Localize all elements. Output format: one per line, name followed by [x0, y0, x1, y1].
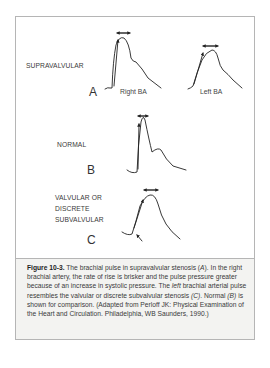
trace-normal	[127, 116, 186, 173]
trace-label-right-ba: Right BA	[120, 88, 147, 95]
panel-a-label: SUPRAVALVULAR	[26, 62, 84, 69]
caption-ref-b: (B)	[227, 292, 236, 299]
panel-c-label-line-3: SUBVALVULAR	[55, 216, 104, 223]
panel-b-label: NORMAL	[57, 141, 86, 148]
panel-c-letter: C	[87, 233, 96, 247]
trace-right-ba	[105, 33, 161, 89]
caption-ref-c: (C)	[191, 292, 200, 299]
trace-left-ba	[188, 46, 242, 89]
caption-text-1: The brachial pulse in supravalvular sten…	[65, 264, 201, 271]
trace-valvular	[122, 190, 180, 241]
pulse-waveforms	[0, 0, 270, 260]
panel-c-label-line-1: VALVULAR OR	[55, 194, 102, 201]
panel-c-label-line-2: DISCRETE	[55, 205, 90, 212]
caption-text-4: . Normal	[200, 292, 227, 299]
figure-number: Figure 10-3.	[27, 264, 65, 271]
caption-left-word: left	[172, 282, 181, 289]
trace-label-left-ba: Left BA	[200, 88, 222, 95]
panel-b-letter: B	[87, 163, 95, 177]
panel-a-letter: A	[89, 85, 97, 99]
figure-caption: Figure 10-3. The brachial pulse in supra…	[16, 259, 254, 339]
